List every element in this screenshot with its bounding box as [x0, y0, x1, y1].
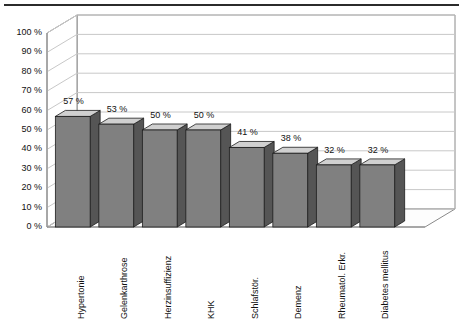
bar-value-label: 32 %	[324, 146, 345, 155]
bar-value-label: 32 %	[368, 146, 389, 155]
bar-value-label: 50 %	[150, 111, 171, 120]
y-axis-tick-label: 90 %	[0, 47, 42, 56]
bar-column	[142, 124, 187, 227]
bar-front-face	[186, 130, 221, 227]
bar-column	[186, 124, 231, 227]
bar-front-face	[142, 130, 177, 227]
bar-column	[273, 147, 318, 227]
x-axis-category-label: Demenz	[294, 285, 303, 319]
bar-front-face	[316, 165, 351, 227]
y-axis-tick-label: 70 %	[0, 86, 42, 95]
bar-column	[316, 159, 361, 227]
bar-value-label: 50 %	[194, 111, 215, 120]
bar-front-face	[273, 153, 308, 227]
bar-front-face	[360, 165, 395, 227]
bar-value-label: 53 %	[107, 105, 128, 114]
x-axis-category-label: Diabetes mellitus	[381, 250, 390, 319]
y-axis-tick-label: 10 %	[0, 203, 42, 212]
x-axis-category-label: Hypertonie	[77, 275, 86, 319]
x-axis-category-label: Rheumatol. Erkr.	[338, 252, 347, 319]
bar-front-face	[99, 124, 134, 227]
bar-value-label: 41 %	[237, 128, 258, 137]
bar-column	[99, 118, 144, 227]
y-axis-tick-label: 80 %	[0, 67, 42, 76]
x-axis-category-label: Schlafstör.	[251, 277, 260, 319]
chart-plot-area	[0, 0, 463, 323]
bar-side-face	[395, 159, 405, 227]
x-axis-category-label: KHK	[207, 300, 216, 319]
x-axis-category-label: Gelenkarthrose	[120, 257, 129, 319]
bar-value-label: 57 %	[63, 97, 84, 106]
bar-front-face	[229, 147, 264, 227]
bar-column	[55, 110, 100, 227]
x-axis-category-label: Herzinsuffizienz	[164, 256, 173, 319]
y-axis-tick-label: 60 %	[0, 106, 42, 115]
bar-value-label: 38 %	[281, 134, 302, 143]
y-axis-tick-label: 20 %	[0, 183, 42, 192]
bar-front-face	[55, 116, 90, 227]
chart-geometry	[47, 15, 455, 227]
bar-column	[229, 141, 274, 227]
y-axis-tick-label: 100 %	[0, 28, 42, 37]
bar-chart-figure: 0 %10 %20 %30 %40 %50 %60 %70 %80 %90 %1…	[0, 0, 463, 323]
y-axis-tick-label: 40 %	[0, 144, 42, 153]
y-axis-tick-label: 50 %	[0, 125, 42, 134]
y-axis-tick-label: 0 %	[0, 222, 42, 231]
bar-column	[360, 159, 405, 227]
y-axis-tick-label: 30 %	[0, 164, 42, 173]
